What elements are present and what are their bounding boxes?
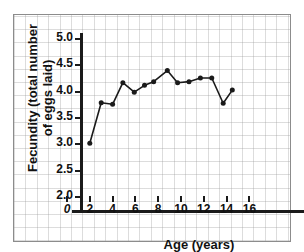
chart-panel: 2.02.53.03.54.04.55.0 0246810121416 2, 3… (13, 14, 291, 242)
y-tick-mark (75, 91, 80, 93)
y-tick-mark (75, 117, 80, 119)
data-point-8: 9.7, 4.17 (175, 80, 180, 85)
data-point-3: 4.9, 4.17 (120, 80, 125, 85)
data-point-13: 14.5, 4.03 (230, 88, 235, 93)
data-point-4: 5.9, 3.99 (132, 90, 137, 95)
y-tick-mark (75, 170, 80, 172)
y-tick-mark (75, 196, 80, 198)
figure-root: 2.02.53.03.54.04.55.0 0246810121416 2, 3… (0, 0, 304, 252)
y-tick-mark (75, 38, 80, 40)
data-point-6: 7.6, 4.19 (151, 79, 156, 84)
y-tick-2.0: 2.0 (14, 196, 80, 198)
x-axis-title: Age (years) (114, 237, 284, 252)
y-tick-label: 5.0 (56, 30, 73, 44)
x-tick-label: 0 (56, 202, 78, 216)
data-point-12: 13.7, 3.78 (221, 101, 226, 106)
y-tick-mark (75, 64, 80, 66)
data-point-10: 11.7, 4.26 (198, 75, 203, 80)
data-point-11: 12.7, 4.26 (209, 75, 214, 80)
series-polyline (90, 71, 233, 144)
data-point-5: 6.8, 4.12 (142, 83, 147, 88)
x-tick-0: 0 (66, 196, 68, 202)
data-point-7: 8.8, 4.4 (165, 68, 170, 73)
y-tick-label: 2.5 (56, 162, 73, 176)
y-tick-label: 3.5 (56, 109, 73, 123)
y-tick-label: 4.0 (56, 83, 73, 97)
y-axis-title-line1: Fecundity (total number (25, 24, 40, 172)
y-tick-mark (75, 143, 80, 145)
plot-area: 2, 3.023, 3.794, 3.764.9, 4.175.9, 3.996… (81, 47, 271, 211)
data-point-1: 3, 3.79 (99, 100, 104, 105)
data-point-2: 4, 3.76 (110, 102, 115, 107)
y-tick-label: 3.0 (56, 135, 73, 149)
data-point-0: 2, 3.02 (87, 141, 92, 146)
data-series-line: 2, 3.023, 3.794, 3.764.9, 4.175.9, 3.996… (81, 47, 271, 211)
data-point-9: 10.7, 4.19 (186, 79, 191, 84)
y-tick-label: 2.0 (56, 188, 73, 202)
y-axis-title: Fecundity (total number of eggs laid) (25, 8, 55, 188)
y-axis-title-line2: of eggs laid) (40, 8, 55, 188)
y-tick-label: 4.5 (56, 56, 73, 70)
